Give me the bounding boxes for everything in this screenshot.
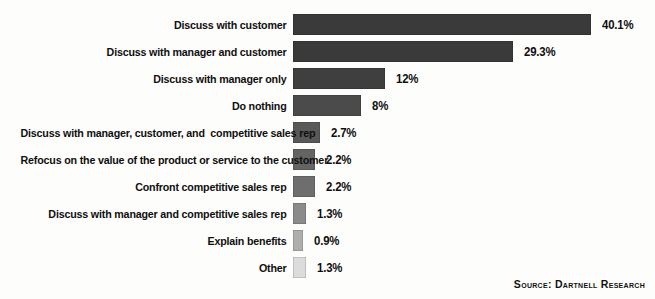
value-label: 1.3% — [317, 261, 342, 275]
bar-track: 2.2% — [293, 173, 655, 200]
source-attribution: Source: Dartnell Research — [514, 278, 645, 290]
bar-discuss-with-manager-and-customer — [293, 41, 513, 62]
chart-row: Refocus on the value of the product or s… — [0, 146, 655, 173]
category-label: Discuss with customer — [21, 19, 293, 31]
chart-row: Other 1.3% — [0, 254, 655, 281]
category-label: Discuss with manager and competitive sal… — [21, 208, 293, 220]
bar-track: 2.7% — [293, 119, 655, 146]
bar-discuss-with-manager-only — [293, 68, 385, 89]
value-label: 40.1% — [602, 18, 633, 32]
bar-do-nothing — [293, 95, 361, 116]
value-label: 8% — [372, 99, 388, 113]
bar-track: 8% — [293, 92, 655, 119]
bar-track: 12% — [293, 65, 655, 92]
bar-discuss-with-manager-and-competitive-sales-rep — [293, 203, 306, 224]
bar-other — [293, 257, 306, 278]
category-label: Explain benefits — [21, 235, 293, 247]
bar-track: 0.9% — [293, 227, 655, 254]
chart-row: Explain benefits 0.9% — [0, 227, 655, 254]
value-label: 29.3% — [524, 45, 555, 59]
value-label: 1.3% — [317, 207, 342, 221]
chart-row: Discuss with manager, customer, and comp… — [0, 119, 655, 146]
category-label: Do nothing — [21, 100, 293, 112]
chart-row: Discuss with manager and competitive sal… — [0, 200, 655, 227]
bar-track: 2.2% — [293, 146, 655, 173]
value-label: 2.2% — [326, 153, 351, 167]
category-label: Discuss with manager only — [21, 73, 293, 85]
category-label: Discuss with manager and customer — [21, 46, 293, 58]
bar-track: 1.3% — [293, 254, 655, 281]
bar-track: 1.3% — [293, 200, 655, 227]
value-label: 12% — [396, 72, 418, 86]
chart-row: Discuss with manager and customer 29.3% — [0, 38, 655, 65]
value-label: 2.2% — [326, 180, 351, 194]
bar-track: 29.3% — [293, 38, 655, 65]
value-label: 2.7% — [331, 126, 356, 140]
bar-track: 40.1% — [293, 11, 655, 38]
bar-explain-benefits — [293, 230, 303, 251]
chart-row: Confront competitive sales rep 2.2% — [0, 173, 655, 200]
category-label: Confront competitive sales rep — [21, 181, 293, 193]
horizontal-bar-chart: Discuss with customer 40.1% Discuss with… — [0, 0, 655, 299]
value-label: 0.9% — [314, 234, 339, 248]
bar-discuss-with-customer — [293, 14, 591, 35]
chart-row: Discuss with customer 40.1% — [0, 11, 655, 38]
chart-row: Do nothing 8% — [0, 92, 655, 119]
bar-confront-competitive-sales-rep — [293, 176, 315, 197]
category-label: Discuss with manager, customer, and comp… — [21, 127, 293, 139]
category-label: Refocus on the value of the product or s… — [21, 154, 293, 166]
chart-row: Discuss with manager only 12% — [0, 65, 655, 92]
category-label: Other — [21, 262, 293, 274]
